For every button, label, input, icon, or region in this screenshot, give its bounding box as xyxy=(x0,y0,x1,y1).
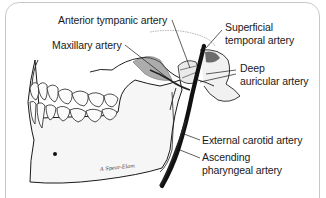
leader-ascending-pharyngeal xyxy=(180,150,200,158)
leader-external-carotid xyxy=(184,134,200,140)
label-maxillary-artery: Maxillary artery xyxy=(52,39,122,51)
label-superficial-temporal-artery-line2: temporal artery xyxy=(225,34,294,46)
label-deep-auricular-artery-line2: auricular artery xyxy=(240,75,308,87)
label-external-carotid-artery: External carotid artery xyxy=(202,134,302,146)
leader-anterior-tympanic xyxy=(172,20,190,68)
upper-teeth xyxy=(30,83,118,107)
skull-base-outline xyxy=(150,30,215,46)
mental-foramen xyxy=(53,152,57,156)
label-ascending-pharyngeal-artery-line1: Ascending xyxy=(202,151,250,163)
label-anterior-tympanic-artery: Anterior tympanic artery xyxy=(58,14,167,26)
label-ascending-pharyngeal-artery-line2: pharyngeal artery xyxy=(202,164,282,176)
label-deep-auricular-artery-line1: Deep xyxy=(240,62,265,74)
label-superficial-temporal-artery-line1: Superficial xyxy=(225,21,273,33)
leader-superficial-temporal xyxy=(206,30,222,48)
